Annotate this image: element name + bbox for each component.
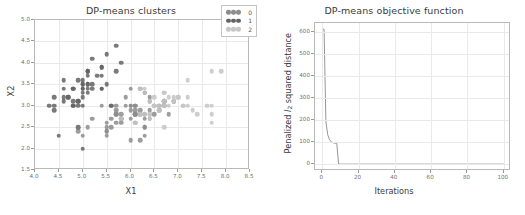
scatter-point-cluster-1	[80, 103, 85, 108]
scatter-point-cluster-2	[143, 112, 148, 117]
y-tick-label: 3.5	[12, 80, 30, 86]
x-tick-label: 5.5	[101, 173, 110, 179]
y-tickmark	[311, 31, 314, 32]
legend-item-0[interactable]: 0	[225, 8, 252, 17]
scatter-point-cluster-0	[119, 121, 124, 126]
y-tickmark	[311, 141, 314, 142]
panel-clusters: DP-means clusters X1 X2 012 4.04.55.05.5…	[0, 0, 262, 215]
gridline-h	[315, 98, 509, 99]
x-tickmark	[430, 170, 431, 173]
scatter-point-cluster-2	[181, 103, 186, 108]
scatter-point-cluster-1	[90, 56, 95, 61]
scatter-point-cluster-0	[100, 103, 105, 108]
x-tickmark	[177, 169, 178, 172]
scatter-point-cluster-1	[52, 108, 57, 113]
gridline-h	[35, 84, 248, 85]
scatter-point-cluster-1	[100, 65, 105, 70]
scatter-point-cluster-1	[104, 52, 109, 57]
scatter-point-cluster-1	[114, 69, 119, 74]
y-tick-label: 400	[290, 72, 310, 78]
x-tickmark	[466, 170, 467, 173]
y-tickmark	[311, 97, 314, 98]
gridline-h	[35, 41, 248, 42]
scatter-point-cluster-0	[123, 103, 128, 108]
gridline-h	[35, 149, 248, 150]
legend-label-1: 1	[248, 17, 252, 24]
y-tickmark	[31, 19, 34, 20]
scatter-point-cluster-1	[61, 78, 66, 83]
gridline-h	[35, 127, 248, 128]
gridline-h	[35, 63, 248, 64]
scatter-point-cluster-1	[100, 73, 105, 78]
y-tickmark	[31, 40, 34, 41]
scatter-point-cluster-2	[162, 103, 167, 108]
y-tickmark	[31, 62, 34, 63]
scatter-point-cluster-2	[138, 86, 143, 91]
scatter-point-cluster-1	[66, 95, 71, 100]
gridline-v	[504, 23, 505, 169]
gridline-v	[359, 23, 360, 169]
gridline-h	[315, 76, 509, 77]
gridline-h	[315, 164, 509, 165]
scatter-point-cluster-2	[119, 116, 124, 121]
objective-xlabel: Iterations	[263, 186, 525, 196]
scatter-point-cluster-0	[128, 86, 133, 91]
scatter-point-cluster-0	[109, 125, 114, 130]
gridline-h	[315, 32, 509, 33]
y-tick-label: 600	[290, 28, 310, 34]
legend-label-0: 0	[248, 9, 252, 16]
scatter-point-cluster-1	[57, 133, 62, 138]
legend-item-2[interactable]: 2	[225, 25, 252, 34]
scatter-point-cluster-1	[100, 86, 105, 91]
x-tickmark	[358, 170, 359, 173]
scatter-point-cluster-0	[143, 125, 148, 130]
scatter-point-cluster-1	[80, 91, 85, 96]
gridline-v	[431, 23, 432, 169]
scatter-point-cluster-1	[85, 69, 90, 74]
y-tickmark	[311, 163, 314, 164]
scatter-point-cluster-1	[61, 99, 66, 104]
scatter-point-cluster-1	[104, 82, 109, 87]
figure: DP-means clusters X1 X2 012 4.04.55.05.5…	[0, 0, 525, 215]
y-tick-label: 300	[290, 94, 310, 100]
scatter-point-cluster-2	[209, 112, 214, 117]
scatter-point-cluster-2	[147, 112, 152, 117]
x-tick-label: 0	[319, 174, 323, 180]
scatter-point-cluster-1	[61, 86, 66, 91]
legend-item-1[interactable]: 1	[225, 17, 252, 26]
scatter-point-cluster-2	[166, 103, 171, 108]
scatter-point-cluster-2	[176, 95, 181, 100]
scatter-point-cluster-2	[195, 112, 200, 117]
cluster-legend[interactable]: 012	[221, 5, 257, 37]
scatter-point-cluster-1	[52, 103, 57, 108]
scatter-point-cluster-1	[71, 86, 76, 91]
objective-curve	[315, 23, 509, 169]
legend-marker-1	[225, 17, 245, 24]
scatter-point-cluster-2	[166, 95, 171, 100]
scatter-point-cluster-2	[219, 69, 224, 74]
scatter-point-cluster-1	[76, 99, 81, 104]
x-tickmark	[153, 169, 154, 172]
y-tickmark	[31, 126, 34, 127]
scatter-point-cluster-2	[209, 121, 214, 126]
objective-line	[322, 29, 503, 164]
scatter-point-cluster-1	[85, 86, 90, 91]
scatter-point-cluster-2	[143, 86, 148, 91]
scatter-point-cluster-2	[147, 116, 152, 121]
x-tick-label: 6.0	[125, 173, 134, 179]
gridline-v	[395, 23, 396, 169]
x-tick-label: 40	[390, 174, 397, 180]
y-tickmark	[31, 169, 34, 170]
scatter-point-cluster-1	[95, 73, 100, 78]
x-tick-label: 8.0	[221, 173, 230, 179]
scatter-point-cluster-0	[80, 133, 85, 138]
scatter-point-cluster-0	[85, 125, 90, 130]
gridline-v	[467, 23, 468, 169]
scatter-point-cluster-0	[104, 121, 109, 126]
scatter-point-cluster-0	[143, 133, 148, 138]
x-tickmark	[201, 169, 202, 172]
scatter-point-cluster-0	[128, 116, 133, 121]
scatter-point-cluster-2	[162, 91, 167, 96]
clusters-plot-area	[34, 19, 249, 169]
x-tick-label: 4.0	[30, 173, 39, 179]
